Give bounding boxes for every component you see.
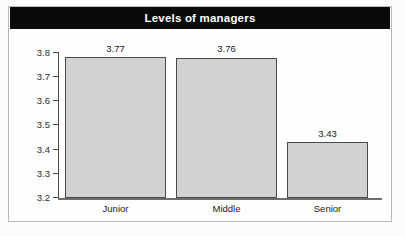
category-label-middle: Middle	[176, 203, 277, 214]
y-tick-label-5: 3.3	[24, 168, 50, 179]
y-tick-label-4: 3.4	[24, 144, 50, 155]
bar-value-junior: 3.77	[65, 43, 166, 54]
y-tick-mark-1	[53, 76, 58, 77]
y-tick-mark-5	[53, 173, 58, 174]
y-tick-mark-4	[53, 149, 58, 150]
y-tick-mark-0	[53, 52, 58, 53]
category-label-senior: Senior	[287, 203, 368, 214]
bar-middle	[176, 58, 277, 198]
category-label-junior: Junior	[65, 203, 166, 214]
page-background: Levels of managers 3.8 3.7 3.6 3.5 3.4 3…	[0, 0, 405, 236]
y-tick-mark-3	[53, 124, 58, 125]
y-tick-label-0: 3.8	[24, 47, 50, 58]
y-tick-mark-6	[53, 197, 58, 198]
y-tick-mark-2	[53, 100, 58, 101]
y-tick-label-2: 3.6	[24, 95, 50, 106]
bar-value-middle: 3.76	[176, 43, 277, 54]
y-tick-label-3: 3.5	[24, 119, 50, 130]
bar-junior	[65, 57, 166, 198]
y-tick-label-6: 3.2	[24, 192, 50, 203]
bar-senior	[287, 142, 368, 198]
y-tick-label-1: 3.7	[24, 71, 50, 82]
bar-value-senior: 3.43	[287, 128, 368, 139]
plot-area: 3.8 3.7 3.6 3.5 3.4 3.3 3.2 3.77 Junior …	[0, 0, 405, 236]
y-axis-line	[58, 52, 59, 199]
x-axis-line	[58, 198, 382, 200]
